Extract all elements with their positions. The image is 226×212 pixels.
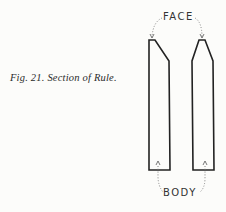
right-rule-section [192,40,214,170]
rule-section-diagram [0,0,226,212]
left-rule-section [149,40,170,170]
arrow-left-bottom-icon [156,161,160,165]
arrow-right-bottom-icon [203,161,207,165]
face-leader-right [195,18,202,37]
